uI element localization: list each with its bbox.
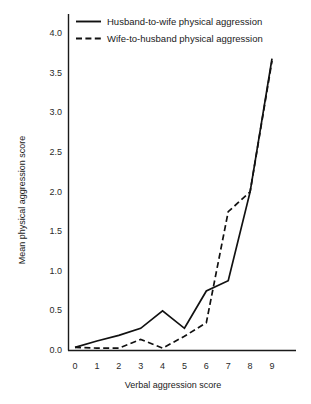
y-tick-label: 3.5 — [49, 68, 62, 78]
y-tick-label: 2.0 — [49, 187, 62, 197]
y-axis-title: Mean physical aggression score — [17, 136, 27, 265]
x-tick-label: 1 — [94, 361, 99, 371]
y-tick-label: 3.0 — [49, 107, 62, 117]
legend-label-husband-to-wife: Husband-to-wife physical aggression — [107, 16, 262, 27]
chart-canvas: Mean physical aggression score 4.0 3.5 3… — [0, 0, 311, 404]
x-tick-label: 0 — [72, 361, 77, 371]
x-tick-label: 4 — [160, 361, 165, 371]
y-tick-label: 0.5 — [49, 305, 62, 315]
y-tick-labels: 4.0 3.5 3.0 2.5 2.0 1.5 1.0 0.5 0.0 — [49, 28, 62, 355]
series-plot-group — [75, 59, 272, 349]
x-tick-label: 2 — [116, 361, 121, 371]
x-tick-label: 7 — [226, 361, 231, 371]
y-tick-label: 1.5 — [49, 226, 62, 236]
y-tick-label: 1.0 — [49, 266, 62, 276]
y-axis-title-group: Mean physical aggression score — [17, 136, 27, 265]
x-tick-label: 3 — [138, 361, 143, 371]
legend: Husband-to-wife physical aggression Wife… — [76, 16, 263, 44]
y-tick-label: 2.5 — [49, 147, 62, 157]
series-line-wife-to-husband — [75, 61, 272, 348]
x-tick-label: 8 — [248, 361, 253, 371]
line-chart-figure: Mean physical aggression score 4.0 3.5 3… — [0, 0, 311, 404]
legend-label-wife-to-husband: Wife-to-husband physical aggression — [107, 33, 263, 44]
x-tick-label: 6 — [204, 361, 209, 371]
y-tick-label: 0.0 — [49, 345, 62, 355]
x-tick-label: 9 — [269, 361, 274, 371]
x-axis-title: Verbal aggression score — [125, 380, 222, 390]
y-tick-label: 4.0 — [49, 28, 62, 38]
x-tick-labels: 0 1 2 3 4 5 6 7 8 9 — [72, 361, 274, 371]
x-tick-label: 5 — [182, 361, 187, 371]
series-line-husband-to-wife — [75, 59, 272, 348]
